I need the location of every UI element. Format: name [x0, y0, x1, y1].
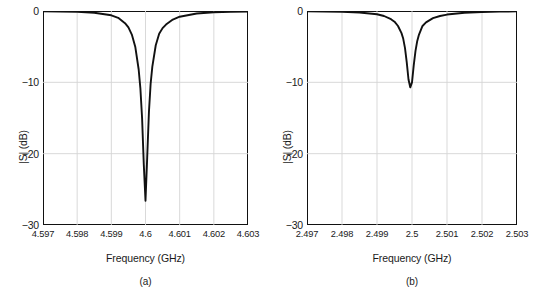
panel-caption-b: (b) [307, 276, 517, 287]
y-tick-b-1: −10 [286, 76, 303, 88]
panel-caption-a: (a) [43, 276, 248, 287]
plot-svg-a [43, 11, 248, 225]
x-tick-a-1: 4.598 [66, 229, 88, 239]
y-tick-b-0: 0 [297, 5, 303, 17]
y-tick-b-2: −20 [286, 148, 303, 160]
figure-container: |S| (dB) 0 −10 −20 −30 4.597 4 [0, 0, 537, 293]
x-tick-a-5: 4.602 [203, 229, 225, 239]
x-tick-b-5: 2.502 [471, 229, 493, 239]
x-axis-title-b: Frequency (GHz) [307, 252, 517, 264]
x-tick-b-4: 2.501 [436, 229, 458, 239]
x-tick-a-4: 4.601 [169, 229, 191, 239]
x-tick-b-0: 2.497 [296, 229, 318, 239]
chart-panel-a: |S| (dB) 0 −10 −20 −30 4.597 4 [0, 0, 268, 293]
x-tick-b-3: 2.5 [406, 229, 418, 239]
x-axis-title-a: Frequency (GHz) [43, 252, 248, 264]
y-tick-a-0: 0 [33, 5, 39, 17]
chart-panel-b: |S| (dB) 0 −10 −20 −30 2.497 2 [268, 0, 536, 293]
x-tick-b-6: 2.503 [506, 229, 528, 239]
x-tick-a-6: 4.603 [237, 229, 259, 239]
y-tick-a-1: −10 [22, 76, 39, 88]
x-tick-b-2: 2.499 [366, 229, 388, 239]
plot-area-a: 0 −10 −20 −30 4.597 4.598 4.599 4.6 4.60… [43, 11, 248, 225]
plot-svg-b [307, 11, 517, 225]
x-tick-a-0: 4.597 [32, 229, 54, 239]
plot-area-b: 0 −10 −20 −30 2.497 2.498 2.499 2.5 2.50… [307, 11, 517, 225]
y-tick-a-2: −20 [22, 148, 39, 160]
x-tick-a-3: 4.6 [139, 229, 151, 239]
gridlines-b [307, 11, 517, 225]
x-tick-b-1: 2.498 [331, 229, 353, 239]
x-tick-a-2: 4.599 [100, 229, 122, 239]
